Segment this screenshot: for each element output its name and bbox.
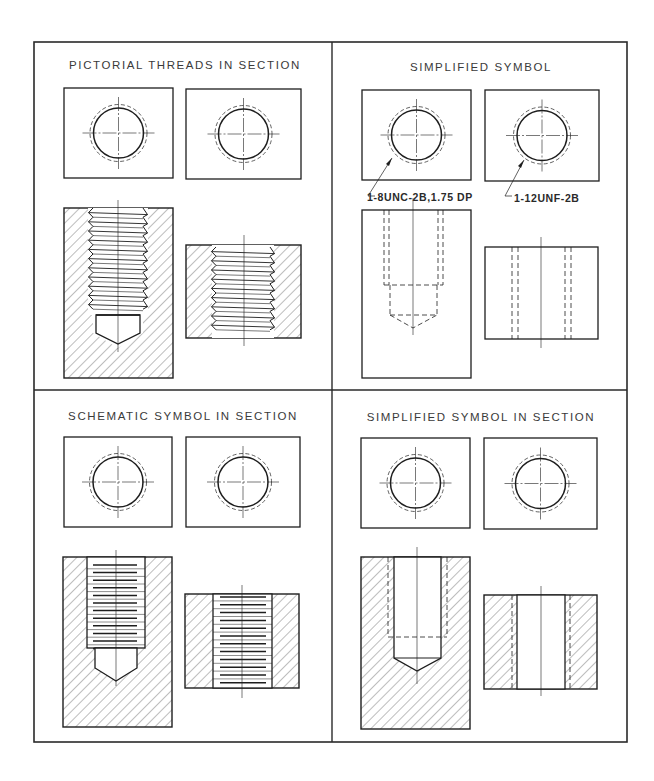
panel-pictorial-threads-in-section xyxy=(64,88,301,378)
top-view-blind-hole xyxy=(64,437,172,527)
section-through-hole-simplified xyxy=(484,586,597,696)
panel-title-simplified: SIMPLIFIED SYMBOL xyxy=(358,61,604,73)
thread-representation-sheet: PICTORIAL THREADS IN SECTION SIMPLIFIED … xyxy=(0,0,654,781)
panel-schematic-symbol-in-section xyxy=(63,437,300,727)
section-blind-hole-simplified xyxy=(361,547,470,729)
panel-title-simplified-section: SIMPLIFIED SYMBOL IN SECTION xyxy=(358,411,604,423)
drawing-canvas xyxy=(0,0,654,781)
section-through-hole xyxy=(186,235,301,346)
panel-title-pictorial: PICTORIAL THREADS IN SECTION xyxy=(60,59,310,71)
top-view-blind-hole xyxy=(362,90,471,180)
panel-title-schematic-section: SCHEMATIC SYMBOL IN SECTION xyxy=(58,410,308,422)
top-view-through-hole xyxy=(186,437,300,527)
top-view-blind-hole xyxy=(361,438,470,528)
panel-simplified-symbol xyxy=(362,90,599,378)
top-view-through-hole xyxy=(186,89,301,179)
section-through-hole-schematic xyxy=(185,585,299,698)
panel-simplified-symbol-in-section xyxy=(361,438,597,729)
top-view-through-hole xyxy=(484,438,597,529)
section-blind-hole-hidden xyxy=(362,198,471,378)
section-blind-hole-schematic xyxy=(63,550,172,727)
top-view-through-hole xyxy=(485,90,599,181)
top-view-blind-hole xyxy=(64,88,173,178)
callout-through-hole: 1-12UNF-2B xyxy=(514,192,580,204)
section-blind-hole xyxy=(64,200,173,378)
section-through-hole-hidden xyxy=(485,237,598,348)
callout-blind-hole: 1-8UNC-2B,1.75 DP xyxy=(367,191,473,203)
